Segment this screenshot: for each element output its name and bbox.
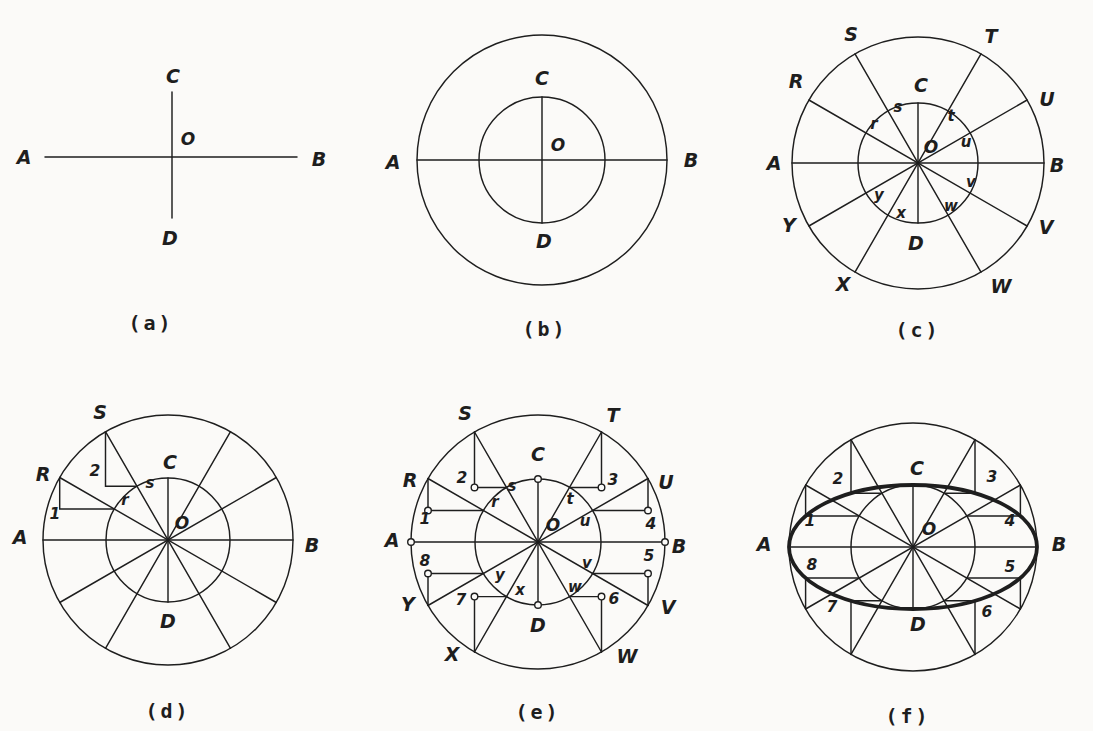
label-V: V xyxy=(1039,218,1054,237)
label-A: A xyxy=(13,528,28,547)
label-u: u xyxy=(580,514,591,529)
label-point-7: 7 xyxy=(827,600,838,616)
label-S: S xyxy=(844,25,858,44)
label-C: C xyxy=(166,67,180,86)
label-y: y xyxy=(874,188,884,203)
label-X: X xyxy=(836,275,851,294)
point-marker-4 xyxy=(645,507,652,514)
label-r: r xyxy=(121,493,128,508)
label-O: O xyxy=(922,521,936,538)
label-r: r xyxy=(870,117,877,132)
label-point-3: 3 xyxy=(608,473,619,489)
point-marker-B xyxy=(662,539,669,546)
figure-c-drawing xyxy=(760,10,1093,350)
label-C: C xyxy=(531,445,545,464)
label-x: x xyxy=(515,583,525,598)
label-point-8: 8 xyxy=(807,558,818,574)
label-point-1: 1 xyxy=(50,507,61,523)
label-s: s xyxy=(894,100,903,115)
label-C: C xyxy=(163,453,177,472)
label-D: D xyxy=(530,616,546,635)
caption-e: (e) xyxy=(515,702,560,722)
caption-c: (c) xyxy=(895,320,940,340)
label-S: S xyxy=(93,403,107,422)
label-point-2: 2 xyxy=(457,471,468,487)
label-point-3: 3 xyxy=(987,470,998,486)
label-R: R xyxy=(403,471,418,490)
label-w: w xyxy=(568,580,582,595)
label-W: W xyxy=(617,647,638,666)
caption-f: (f) xyxy=(885,706,930,726)
point-marker-D xyxy=(535,602,542,609)
label-point-4: 4 xyxy=(646,517,657,533)
label-S: S xyxy=(458,404,472,423)
label-A: A xyxy=(757,535,772,554)
point-marker-C xyxy=(535,476,542,483)
label-point-6: 6 xyxy=(609,592,620,608)
label-D: D xyxy=(160,612,176,631)
label-y: y xyxy=(495,568,505,583)
label-s: s xyxy=(146,476,155,491)
point-marker-A xyxy=(408,539,415,546)
label-R: R xyxy=(789,72,804,91)
label-point-8: 8 xyxy=(420,554,431,570)
figure-a: A B C D O (a) xyxy=(0,50,340,350)
label-O: O xyxy=(551,137,565,154)
caption-b: (b) xyxy=(522,319,567,339)
label-point-5: 5 xyxy=(1005,560,1016,576)
label-x: x xyxy=(896,206,906,221)
figure-f: C 2 3 A B O 1 4 8 5 7 6 D (f) xyxy=(745,385,1090,730)
label-A: A xyxy=(767,154,782,173)
label-O: O xyxy=(175,515,189,532)
label-W: W xyxy=(991,277,1012,296)
figure-e: S T R U C O A B Y V X W D 1 2 3 4 5 6 7 … xyxy=(375,385,705,730)
label-Y: Y xyxy=(401,595,415,614)
figure-d-drawing xyxy=(5,385,340,725)
point-marker-8 xyxy=(425,570,432,577)
label-B: B xyxy=(312,150,326,169)
label-B: B xyxy=(684,151,698,170)
label-point-2: 2 xyxy=(833,472,844,488)
label-u: u xyxy=(961,135,972,150)
label-X: X xyxy=(445,645,460,664)
point-marker-6 xyxy=(598,593,605,600)
label-C: C xyxy=(535,69,549,88)
label-C: C xyxy=(910,459,924,478)
label-O: O xyxy=(546,517,560,534)
point-marker-2 xyxy=(471,484,478,491)
label-A: A xyxy=(17,148,32,167)
label-B: B xyxy=(672,537,686,556)
label-B: B xyxy=(305,536,319,555)
label-T: T xyxy=(985,27,998,46)
caption-d: (d) xyxy=(145,701,190,721)
label-D: D xyxy=(536,232,552,251)
label-V: V xyxy=(661,598,676,617)
label-v: v xyxy=(582,556,592,571)
label-T: T xyxy=(607,406,620,425)
label-O: O xyxy=(924,139,938,156)
figure-a-drawing xyxy=(0,50,340,350)
label-point-4: 4 xyxy=(1005,514,1016,530)
figure-b-drawing xyxy=(385,15,705,345)
label-point-2: 2 xyxy=(90,464,101,480)
label-R: R xyxy=(36,465,51,484)
label-D: D xyxy=(910,615,926,634)
label-s: s xyxy=(508,479,517,494)
label-t: t xyxy=(566,492,573,507)
point-marker-7 xyxy=(471,593,478,600)
label-v: v xyxy=(966,175,976,190)
label-A: A xyxy=(386,153,401,172)
label-Y: Y xyxy=(782,216,796,235)
label-A: A xyxy=(385,531,400,550)
label-D: D xyxy=(162,229,178,248)
label-point-6: 6 xyxy=(982,605,993,621)
caption-a: (a) xyxy=(128,313,173,333)
label-point-1: 1 xyxy=(420,512,431,528)
scanned-figure-page: A B C D O (a) A B C D O (b) xyxy=(0,0,1093,731)
figure-d: S R C O A B D s r 2 1 (d) xyxy=(5,385,340,725)
label-U: U xyxy=(1039,90,1054,109)
label-r: r xyxy=(491,495,498,510)
point-marker-3 xyxy=(598,484,605,491)
label-D: D xyxy=(908,234,924,253)
label-point-1: 1 xyxy=(805,514,816,530)
